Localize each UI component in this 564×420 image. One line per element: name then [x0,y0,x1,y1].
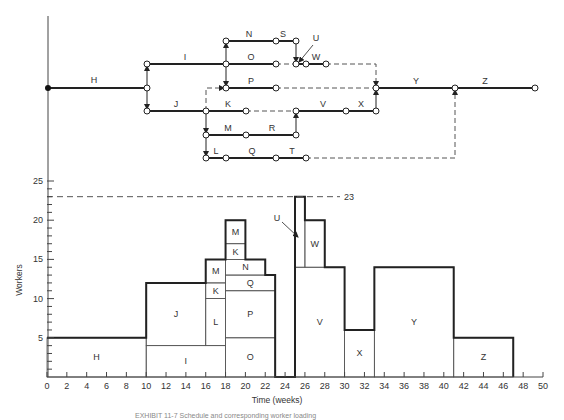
activity-blocks: HIJLKMOPQNKMVWXYZ [47,197,513,377]
limit-label: 23 [344,192,354,202]
event-node [303,155,309,161]
label-Q: Q [248,146,255,156]
x-tick-label: 22 [260,381,270,391]
label-U: U [313,33,320,43]
block-label-K: K [213,286,219,296]
block-label-V: V [317,317,323,327]
event-node [144,61,150,67]
y-tick-label: 10 [33,294,43,304]
network-diagram: H I J N S O U W P K V X M R L Q T Y Z [45,29,538,161]
x-tick-label: 40 [439,381,449,391]
block-label-X: X [356,348,362,358]
block-label-I: I [185,356,188,366]
event-node [203,108,209,114]
event-node [293,61,299,67]
label-N: N [246,29,253,39]
x-tick-label: 0 [44,381,49,391]
x-tick-label: 2 [64,381,69,391]
event-node [293,108,299,114]
label-Z: Z [482,76,488,86]
loading-envelope [47,197,513,377]
block-label-Z: Z [481,352,487,362]
annotation-U: U [274,213,281,223]
x-ticks: 0246810121416182022242628303234363840424… [44,372,548,391]
label-J: J [174,99,179,109]
dummy-K-to-P [206,88,224,111]
label-M: M [224,123,232,133]
x-tick-label: 14 [181,381,191,391]
event-node [203,132,209,138]
block-label-L: L [213,317,218,327]
label-X: X [358,99,364,109]
event-node [293,132,299,138]
block-label-Q: Q [247,278,254,288]
y-tick-label: 5 [38,333,43,343]
label-O: O [247,52,254,62]
block-label-H: H [93,352,100,362]
event-node [532,85,538,91]
event-node [373,85,379,91]
x-tick-label: 6 [104,381,109,391]
block-label-Y: Y [411,317,417,327]
y-tick-label: 20 [33,215,43,225]
event-node [373,108,379,114]
x-tick-label: 50 [538,381,548,391]
block-label-M: M [232,227,240,237]
label-R: R [269,123,276,133]
event-node [452,85,458,91]
y-tick-label: 25 [33,176,43,186]
block-label-J: J [174,309,179,319]
x-tick-label: 8 [124,381,129,391]
x-tick-label: 20 [240,381,250,391]
x-tick-label: 32 [359,381,369,391]
event-node [243,132,249,138]
block-label-W: W [311,239,320,249]
label-W: W [312,52,321,62]
event-node [223,155,229,161]
event-node [273,38,279,44]
x-tick-label: 46 [498,381,508,391]
y-tick-label: 15 [33,254,43,264]
start-node [45,85,51,91]
label-S: S [280,29,286,39]
event-node [203,155,209,161]
y-ticks: 510152025 [33,176,54,369]
label-P: P [248,76,254,86]
diagram-canvas: H I J N S O U W P K V X M R L Q T Y Z HI… [0,0,564,420]
label-H: H [91,75,98,85]
label-V: V [320,99,326,109]
event-node [273,155,279,161]
x-tick-label: 48 [518,381,528,391]
event-node [323,61,329,67]
label-K: K [225,99,231,109]
figure-caption: EXHIBIT 11-7 Schedule and corresponding … [135,412,316,420]
event-node [243,108,249,114]
x-tick-label: 10 [141,381,151,391]
x-axis-title: Time (weeks) [252,395,303,405]
event-node [144,108,150,114]
x-tick-label: 38 [419,381,429,391]
slack-W-dash [326,64,376,86]
block-label-N: N [242,262,249,272]
y-axis-title: Workers [14,264,24,296]
x-tick-label: 30 [340,381,350,391]
event-node [273,85,279,91]
event-node [343,108,349,114]
x-tick-label: 18 [221,381,231,391]
label-Y: Y [413,76,419,86]
x-tick-label: 16 [201,381,211,391]
x-tick-label: 36 [399,381,409,391]
block-U [295,197,305,268]
label-I: I [184,52,187,62]
block-label-O: O [247,352,254,362]
x-tick-label: 4 [84,381,89,391]
event-node [273,61,279,67]
x-tick-label: 44 [478,381,488,391]
slack-T-dash [306,90,455,158]
label-T: T [289,146,295,156]
x-tick-label: 12 [161,381,171,391]
event-node [293,38,299,44]
x-tick-label: 28 [320,381,330,391]
event-node [223,85,229,91]
x-tick-label: 42 [459,381,469,391]
